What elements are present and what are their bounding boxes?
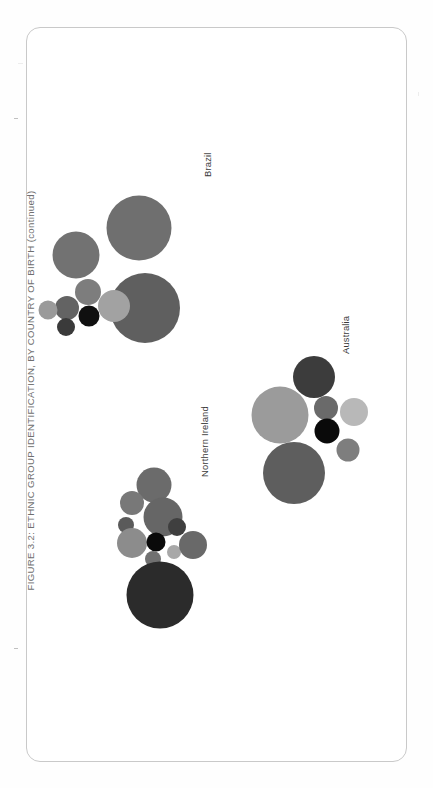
bubble [57, 318, 75, 336]
bubble-chart [26, 27, 407, 762]
bubble-chart-svg [26, 27, 407, 762]
bubble [147, 533, 166, 552]
bubble [117, 528, 147, 558]
page-speck-right [418, 92, 419, 96]
bubble [53, 232, 100, 279]
title-tick-bottom [14, 648, 18, 649]
bubble-cluster [39, 196, 181, 344]
bubble [340, 398, 368, 426]
bubble [263, 442, 325, 504]
bubble [75, 279, 101, 305]
bubble [293, 356, 335, 398]
bubble [98, 290, 130, 322]
bubble [107, 196, 172, 261]
bubble-cluster [252, 356, 369, 504]
bubble [315, 419, 340, 444]
bubble [252, 387, 309, 444]
bubble [79, 306, 100, 327]
bubble [337, 439, 360, 462]
cluster-label-northern-ireland: Northern Ireland [199, 406, 210, 477]
cluster-label-brazil: Brazil [202, 152, 213, 177]
bubble [314, 396, 338, 420]
bubble [168, 518, 186, 536]
cluster-label-australia: Australia [340, 316, 351, 354]
bubble [167, 545, 181, 559]
bubble [120, 491, 144, 515]
bubble-cluster [117, 468, 207, 629]
page-speck-top [18, 63, 23, 64]
title-tick-top [14, 118, 18, 119]
document-page: FIGURE 3.2: ETHNIC GROUP IDENTIFICATION,… [0, 0, 433, 788]
bubble [39, 301, 58, 320]
bubble [127, 562, 194, 629]
bubble [179, 531, 207, 559]
bubble [55, 296, 79, 320]
